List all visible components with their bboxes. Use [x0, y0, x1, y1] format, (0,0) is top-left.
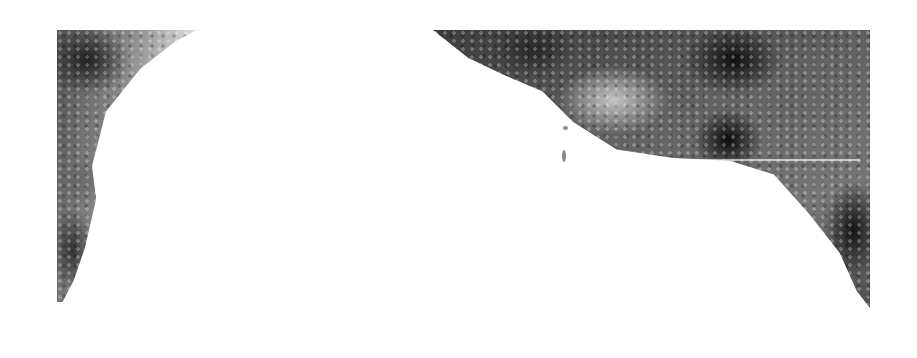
left-texture-region — [57, 30, 197, 302]
scan-line — [660, 159, 860, 161]
right-texture-region — [433, 30, 870, 308]
speck — [563, 126, 568, 130]
texture-overlay — [433, 30, 870, 308]
speck — [562, 150, 566, 162]
texture-overlay — [57, 30, 197, 302]
